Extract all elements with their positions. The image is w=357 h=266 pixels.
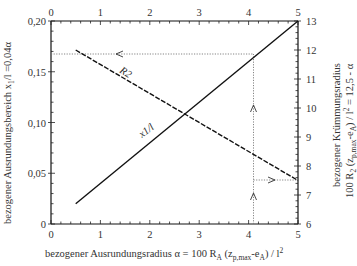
y-left-tick-label: 0,10 [28, 118, 46, 129]
x-tick-label-bottom: 4 [246, 229, 252, 240]
x-tick-label-top: 3 [197, 7, 202, 18]
x-tick-label-top: 5 [295, 7, 300, 18]
x-axis-title: bezogener Ausrundungsradius α = 100 RA (… [45, 246, 283, 262]
y-axis-left-title: bezogener Ausrundungsbereich x1/l =0,04α [2, 42, 16, 224]
x-tick-label-bottom: 2 [147, 229, 152, 240]
y-left-tick-label: 0,15 [28, 67, 46, 78]
x-tick-label-bottom: 5 [295, 229, 300, 240]
reading-guides [51, 54, 298, 224]
x-tick-label-top: 2 [147, 7, 152, 18]
y-left-tick-label: 0,05 [28, 168, 46, 179]
x-tick-label-bottom: 1 [98, 229, 103, 240]
y-right-tick-label: 7 [306, 190, 311, 201]
curve-label-x1: x1/l [136, 121, 156, 140]
x-tick-label-top: 1 [98, 7, 103, 18]
curve-label-r2: R2 [117, 64, 134, 81]
series-x1-l [76, 21, 298, 204]
x-tick-label-bottom: 3 [197, 229, 202, 240]
y-right-tick-label: 10 [306, 103, 317, 114]
data-series [76, 21, 298, 204]
y-right-tick-label: 6 [306, 219, 311, 230]
y-right-tick-label: 12 [306, 45, 317, 56]
x-tick-label-bottom: 0 [48, 229, 53, 240]
arrow-up-icon [251, 193, 257, 200]
y-left-tick-label: 0,20 [28, 16, 46, 27]
y-right-tick-label: 13 [306, 16, 317, 27]
y-right-tick-label: 11 [306, 74, 316, 85]
arrow-right-icon [268, 177, 275, 183]
y-axis-right-title-line2: 100 R2 (zp,max-eA) / l2 = 12,5 - α [342, 63, 357, 198]
y-left-tick-label: 0 [41, 219, 46, 230]
chart: 01234501234500,050,100,150,2067891011121… [0, 0, 357, 266]
y-right-tick-label: 9 [306, 132, 311, 143]
series-r2 [76, 50, 298, 181]
y-axis-right-title-line1: bezogener Krümmungsradius [331, 63, 342, 187]
guide-arrows [116, 51, 275, 200]
x-tick-label-top: 0 [48, 7, 53, 18]
x-tick-label-top: 4 [246, 7, 252, 18]
y-right-tick-label: 8 [306, 161, 311, 172]
